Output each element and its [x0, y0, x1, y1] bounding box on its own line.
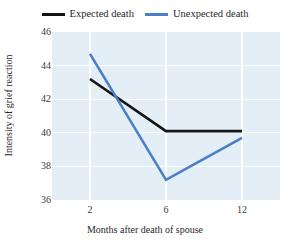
y-axis-title-text: Intensity of grief reaction — [4, 54, 15, 156]
y-tick-label: 46 — [21, 27, 51, 37]
legend-label-unexpected-death: Unexpected death — [173, 8, 249, 20]
legend-swatch-unexpected-death — [145, 13, 168, 16]
y-tick-label: 38 — [21, 161, 51, 171]
x-tick-label: 12 — [227, 205, 257, 215]
legend-swatch-expected-death — [42, 13, 65, 16]
chart-figure: Expected death Unexpected death Intensit… — [0, 0, 290, 247]
y-tick-label: 44 — [21, 61, 51, 71]
x-axis-title: Months after death of spouse — [0, 224, 290, 236]
x-tick-label: 6 — [151, 205, 181, 215]
y-axis-title: Intensity of grief reaction — [1, 0, 17, 210]
y-tick-label: 40 — [21, 128, 51, 138]
y-tick-label: 36 — [21, 195, 51, 205]
legend-entry-expected-death: Expected death — [42, 8, 134, 20]
plot-area — [52, 32, 280, 200]
y-tick-label: 42 — [21, 94, 51, 104]
chart-legend: Expected death Unexpected death — [0, 4, 290, 24]
plot-svg — [52, 32, 280, 200]
legend-entry-unexpected-death: Unexpected death — [145, 8, 249, 20]
legend-label-expected-death: Expected death — [70, 8, 134, 20]
x-tick-label: 2 — [75, 205, 105, 215]
gridlines — [52, 32, 280, 200]
